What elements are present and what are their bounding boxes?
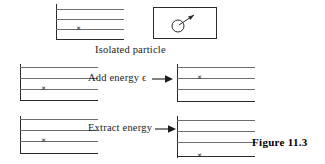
isolated-particle-box <box>153 7 217 39</box>
energy-axis <box>177 64 178 102</box>
energy-level-2 <box>56 19 124 20</box>
energy-level-3 <box>56 29 124 30</box>
energy-level-4 <box>177 101 255 102</box>
isolated-particle-levels: × <box>56 4 124 40</box>
energy-level-1 <box>177 67 255 68</box>
particle-with-velocity-arrow-icon <box>154 8 216 38</box>
energy-axis <box>177 116 178 158</box>
add-energy-right-arrow-icon <box>152 73 174 85</box>
energy-level-4 <box>56 39 124 40</box>
extract-energy-right-arrow-icon <box>155 123 177 135</box>
energy-level-1 <box>20 67 98 68</box>
particle-mark: × <box>75 25 82 32</box>
before-add-energy-levels: × <box>20 64 98 100</box>
energy-level-4 <box>177 156 255 157</box>
particle-mark: × <box>40 85 47 92</box>
after-extract-energy-levels: × <box>177 116 255 158</box>
figure-11-3: × Isolated particle × Add energy ϵ × <box>0 0 325 164</box>
energy-level-2 <box>177 78 255 79</box>
energy-level-3 <box>177 89 255 90</box>
energy-level-1 <box>177 120 255 121</box>
energy-level-2 <box>177 131 255 132</box>
energy-level-2 <box>20 130 98 131</box>
energy-level-3 <box>177 142 255 143</box>
energy-level-2 <box>20 78 98 79</box>
before-extract-energy-levels: × <box>20 116 98 154</box>
particle-mark: × <box>196 74 203 81</box>
figure-label: Figure 11.3 <box>252 136 308 148</box>
energy-level-1 <box>56 9 124 10</box>
add-energy-caption: Add energy ϵ <box>88 72 146 83</box>
energy-level-4 <box>20 153 98 154</box>
energy-level-4 <box>20 100 98 101</box>
energy-axis <box>20 64 21 100</box>
extract-energy-caption: Extract energy <box>88 122 152 133</box>
particle-mark: × <box>40 137 47 144</box>
energy-level-1 <box>20 119 98 120</box>
energy-level-3 <box>20 141 98 142</box>
after-add-energy-levels: × <box>177 64 255 102</box>
energy-axis <box>20 116 21 154</box>
particle-mark: × <box>196 152 203 159</box>
energy-level-3 <box>20 89 98 90</box>
isolated-particle-caption: Isolated particle <box>95 44 166 55</box>
